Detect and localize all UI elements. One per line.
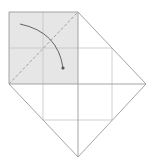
origami-diagram [0,0,152,168]
arrow-end-dot-icon [61,66,64,69]
